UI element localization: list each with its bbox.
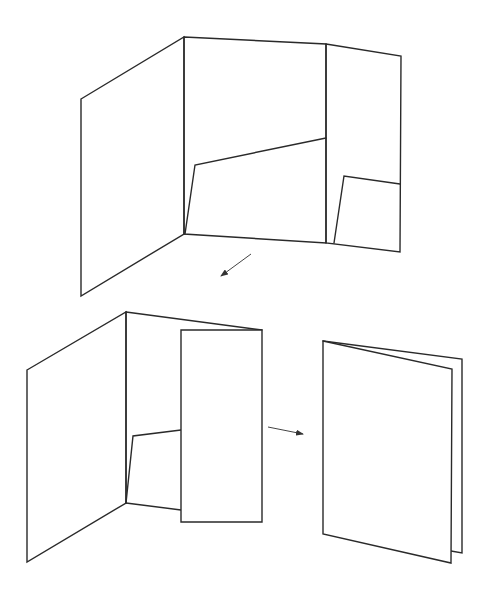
middle-bottom-edge [126,503,181,510]
middle-pocket [185,138,326,234]
left-panel [27,312,126,562]
step-3-closed-folder [323,341,462,563]
right-pocket [334,176,400,243]
middle-panel [184,37,326,243]
left-panel [81,37,184,296]
arrow-icon-step2-to-step3 [268,427,303,434]
folded-flap [181,330,262,522]
middle-panel-top-edge [126,312,262,330]
step-2-right-panel-folded [27,312,262,562]
step-1-open-folder [81,37,401,296]
folder-folding-diagram [0,0,496,597]
front-panel [323,341,452,563]
arrow-icon-step1-to-step2 [221,254,251,276]
middle-pocket [126,430,181,503]
